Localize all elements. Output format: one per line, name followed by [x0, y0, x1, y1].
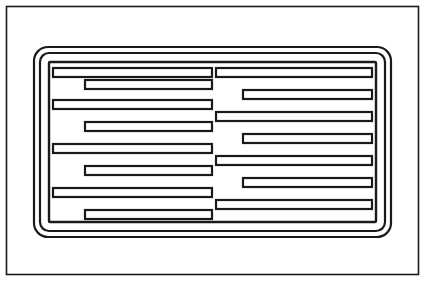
- right-finger-2: [216, 112, 372, 121]
- right-finger-6: [216, 200, 372, 209]
- figure-canvas: [0, 0, 426, 282]
- right-finger-4: [216, 156, 372, 165]
- left-finger-6: [53, 188, 212, 197]
- left-finger-7: [85, 210, 212, 219]
- left-finger-2: [53, 100, 212, 109]
- left-finger-0: [53, 68, 212, 77]
- left-finger-1: [85, 80, 212, 89]
- left-finger-4: [53, 144, 212, 153]
- left-finger-3: [85, 122, 212, 131]
- right-finger-5: [243, 178, 372, 187]
- right-finger-0: [216, 68, 372, 77]
- left-finger-5: [85, 166, 212, 175]
- right-finger-1: [243, 90, 372, 99]
- right-finger-3: [243, 134, 372, 143]
- interdigitated-electrode-diagram: [0, 0, 426, 282]
